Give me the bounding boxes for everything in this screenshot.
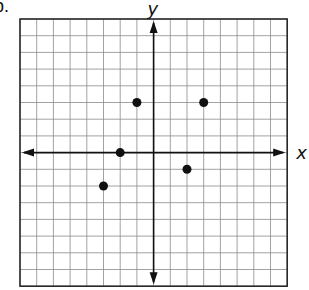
coordinate-grid: x y <box>0 0 309 290</box>
axes <box>22 21 285 284</box>
data-point <box>116 148 125 157</box>
data-point <box>132 98 141 107</box>
data-point <box>199 98 208 107</box>
y-axis-label: y <box>147 0 159 19</box>
x-axis-label: x <box>295 142 307 163</box>
data-point <box>99 182 108 191</box>
data-point <box>183 165 192 174</box>
